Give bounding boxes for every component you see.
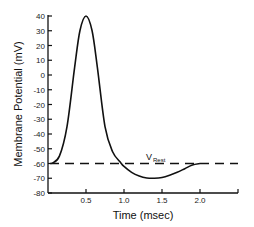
y-tick-label: 20 <box>36 42 45 51</box>
y-tick-label: -30 <box>33 115 45 124</box>
y-tick-label: -80 <box>33 189 45 198</box>
y-tick-label: -40 <box>33 130 45 139</box>
action-potential-chart: 403020100-10-20-30-40-50-60-70-80 0.51.0… <box>0 0 254 227</box>
x-axis: 0.51.01.52.0 <box>48 189 238 205</box>
y-axis-title: Membrane Potential (mV) <box>12 41 24 166</box>
y-tick-label: -20 <box>33 101 45 110</box>
action-potential-curve <box>52 16 200 178</box>
vrest-annotation: V Rest <box>146 152 166 163</box>
vrest-subscript: Rest <box>153 157 166 163</box>
x-tick-label: 1.5 <box>156 196 168 205</box>
y-axis: 403020100-10-20-30-40-50-60-70-80 <box>33 12 52 198</box>
y-tick-label: -70 <box>33 174 45 183</box>
x-tick-label: 1.0 <box>118 196 130 205</box>
y-tick-label: 10 <box>36 56 45 65</box>
vrest-label: V <box>146 152 152 162</box>
y-tick-label: 0 <box>41 71 46 80</box>
y-tick-label: 40 <box>36 12 45 21</box>
x-tick-label: 0.5 <box>80 196 92 205</box>
x-axis-title: Time (msec) <box>113 209 174 221</box>
y-tick-label: -50 <box>33 145 45 154</box>
y-tick-label: -10 <box>33 86 45 95</box>
y-tick-label: -60 <box>33 160 45 169</box>
x-tick-label: 2.0 <box>194 196 206 205</box>
plot-area <box>50 16 238 178</box>
y-tick-label: 30 <box>36 27 45 36</box>
